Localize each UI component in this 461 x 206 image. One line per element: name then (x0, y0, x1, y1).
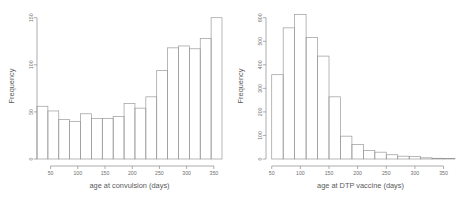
bar-group-dtp (272, 15, 455, 159)
y-axis-tick-label: 100 (257, 131, 263, 140)
histogram-bar (375, 152, 386, 159)
y-axis-tick-label: 50 (28, 109, 34, 115)
histogram-svg-convulsion: 05010015050100150200250300350 age at con… (0, 0, 230, 206)
x-axis-tick-label: 200 (353, 170, 362, 176)
x-axis-tick-label: 150 (325, 170, 334, 176)
histogram-svg-dtp: 010020030040050060050100150200250300350 … (231, 0, 461, 206)
y-axis-tick-label: 0 (28, 157, 34, 160)
y-axis-tick-label: 200 (257, 107, 263, 116)
tick-label-group-convulsion: 05010015050100150200250300350 (28, 13, 218, 176)
tick-label-group-dtp: 010020030040050060050100150200250300350 (257, 13, 448, 176)
axis-group-dtp (263, 18, 444, 169)
x-axis-tick-label: 100 (296, 170, 305, 176)
y-axis-tick-label: 150 (28, 13, 34, 22)
figure-canvas: 05010015050100150200250300350 age at con… (0, 0, 461, 206)
x-axis-tick-label: 250 (382, 170, 391, 176)
y-axis-title-convulsion: Frequency (7, 68, 16, 103)
x-axis-tick-label: 150 (101, 170, 110, 176)
histogram-panel-dtp: 010020030040050060050100150200250300350 … (231, 0, 461, 206)
histogram-bar (386, 155, 397, 159)
x-axis-tick-label: 350 (210, 170, 219, 176)
histogram-bar (398, 156, 409, 159)
histogram-bar (59, 119, 70, 159)
histogram-bar (178, 46, 189, 159)
histogram-bar (432, 158, 443, 159)
x-axis-tick-label: 50 (269, 170, 275, 176)
histogram-bar (200, 38, 211, 159)
histogram-bar (37, 106, 48, 159)
histogram-panel-convulsion: 05010015050100150200250300350 age at con… (0, 0, 230, 206)
histogram-bar (189, 49, 200, 159)
histogram-bar (102, 118, 113, 159)
histogram-bar (352, 144, 363, 159)
histogram-bar (70, 121, 81, 159)
x-axis-title-convulsion: age at convulsion (days) (89, 181, 169, 190)
histogram-bar (81, 114, 92, 159)
histogram-bar (113, 117, 124, 159)
x-axis-tick-label: 300 (411, 170, 420, 176)
histogram-bar (318, 56, 329, 159)
histogram-bar (168, 48, 179, 159)
histogram-bar (283, 28, 294, 159)
histogram-bar (329, 97, 340, 159)
histogram-bar (146, 97, 157, 159)
y-axis-tick-label: 100 (28, 60, 34, 69)
x-axis-title-dtp: age at DTP vaccine (days) (317, 181, 404, 190)
y-axis-tick-label: 300 (257, 84, 263, 93)
histogram-bar (340, 136, 351, 159)
histogram-bar (124, 103, 135, 159)
y-axis-tick-label: 0 (257, 157, 263, 160)
histogram-bar (363, 151, 374, 159)
histogram-bar (421, 158, 432, 159)
x-axis-tick-label: 200 (128, 170, 137, 176)
histogram-bar (409, 157, 420, 159)
x-axis-tick-label: 300 (182, 170, 191, 176)
x-axis-tick-label: 350 (439, 170, 448, 176)
histogram-bar (48, 111, 59, 159)
histogram-bar (135, 108, 146, 159)
x-axis-tick-label: 50 (48, 170, 54, 176)
x-axis-tick-label: 100 (73, 170, 82, 176)
bar-group-convulsion (37, 18, 222, 159)
y-axis-tick-label: 600 (257, 13, 263, 22)
histogram-bar (272, 75, 283, 159)
histogram-bar (157, 70, 168, 159)
histogram-bar (91, 118, 102, 159)
y-axis-tick-label: 400 (257, 60, 263, 69)
x-axis-tick-label: 250 (155, 170, 164, 176)
histogram-bar (295, 15, 306, 159)
y-axis-title-dtp: Frequency (236, 68, 245, 103)
histogram-bar (211, 18, 222, 159)
y-axis-tick-label: 500 (257, 37, 263, 46)
histogram-bar (306, 37, 317, 159)
